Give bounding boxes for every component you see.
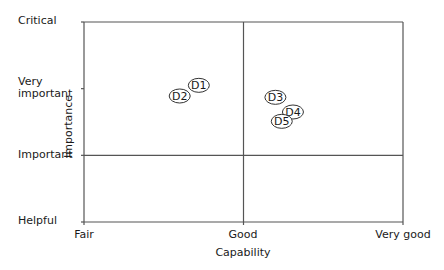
x-axis-title: Capability <box>215 246 270 259</box>
x-tick-good: Good <box>229 229 258 241</box>
capability-importance-chart: D1D2D3D4D5 Critical Very important Impor… <box>0 0 444 270</box>
y-axis-title: Importance <box>62 92 75 162</box>
y-tick-helpful: Helpful <box>18 215 57 227</box>
x-tick-fair: Fair <box>74 229 94 241</box>
data-point-d1: D1 <box>188 78 209 92</box>
point-label: D2 <box>172 90 187 103</box>
point-label: D3 <box>268 91 283 104</box>
data-point-d3: D3 <box>265 90 286 104</box>
plot-frame <box>81 22 403 225</box>
point-label: D5 <box>274 115 289 128</box>
y-tick-critical: Critical <box>18 15 56 27</box>
point-label: D1 <box>191 79 206 92</box>
x-tick-very-good: Very good <box>375 229 430 241</box>
data-points: D1D2D3D4D5 <box>169 78 303 128</box>
data-point-d2: D2 <box>169 89 190 103</box>
data-point-d5: D5 <box>271 114 292 128</box>
